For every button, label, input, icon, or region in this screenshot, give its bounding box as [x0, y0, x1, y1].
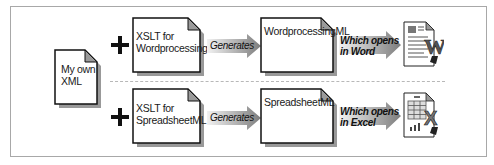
output-doc-label: SpreadsheetML	[264, 96, 334, 108]
excel-spreadsheet-icon: X	[402, 91, 444, 137]
row-divider	[110, 81, 445, 82]
generates-arrow: Generates	[207, 34, 261, 58]
plus-icon	[111, 36, 129, 54]
opens-arrow: Which opens in Excel	[339, 102, 401, 130]
xslt-spreadsheetml-document: XSLT for SpreadsheetML	[133, 89, 200, 143]
output-doc-label: WordprocessingML	[264, 25, 349, 37]
plus-icon	[111, 108, 129, 126]
source-doc-label-line1: My own	[61, 63, 95, 75]
opens-label-line2: in Excel	[340, 117, 399, 128]
opens-arrow: Which opens in Word	[339, 31, 401, 59]
xslt-wordprocessingml-document: XSLT for WordprocessingML	[133, 18, 200, 72]
generates-arrow: Generates	[207, 106, 261, 130]
source-xml-document: My own XML	[55, 50, 97, 104]
source-doc-label-line2: XML	[61, 75, 95, 87]
generates-label: Generates	[210, 40, 254, 51]
opens-label-line1: Which opens	[340, 106, 399, 117]
xslt-label-line2: SpreadsheetML	[136, 114, 206, 126]
spreadsheetml-document: SpreadsheetML	[261, 89, 333, 143]
app-letter: W	[424, 34, 444, 59]
word-document-icon: W	[402, 20, 444, 66]
xslt-label-line1: XSLT for	[136, 102, 206, 114]
wordprocessingml-document: WordprocessingML	[261, 18, 333, 72]
opens-label-line2: in Word	[340, 46, 399, 57]
app-letter: X	[424, 107, 438, 129]
generates-label: Generates	[210, 112, 254, 123]
opens-label-line1: Which opens	[340, 35, 399, 46]
